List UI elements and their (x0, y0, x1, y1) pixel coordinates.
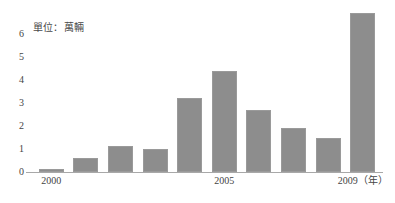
bar (108, 146, 133, 172)
x-axis-tick-label: 2000 (41, 176, 61, 186)
x-axis: 200020052009（年） (0, 176, 395, 196)
y-axis-tick-label: 5 (19, 52, 24, 62)
y-axis-tick-label: 3 (19, 98, 24, 108)
bar-chart: 單位：萬輛 0123456 200020052009（年） (0, 0, 395, 203)
bar (350, 13, 375, 172)
y-axis-tick-label: 1 (19, 144, 24, 154)
bar (246, 110, 271, 172)
bar (73, 158, 98, 172)
bar (177, 98, 202, 172)
bar (281, 128, 306, 172)
bar (212, 71, 237, 172)
x-axis-line (26, 172, 383, 173)
x-axis-tick-label: 2009（年） (338, 176, 388, 186)
bar (143, 149, 168, 172)
y-axis-tick-label: 2 (19, 121, 24, 131)
x-axis-tick-label: 2005 (214, 176, 234, 186)
bars-container (34, 0, 380, 172)
y-axis-tick-label: 6 (19, 29, 24, 39)
bar (316, 138, 341, 173)
y-axis-tick-label: 4 (19, 75, 24, 85)
y-axis: 0123456 (0, 0, 34, 182)
